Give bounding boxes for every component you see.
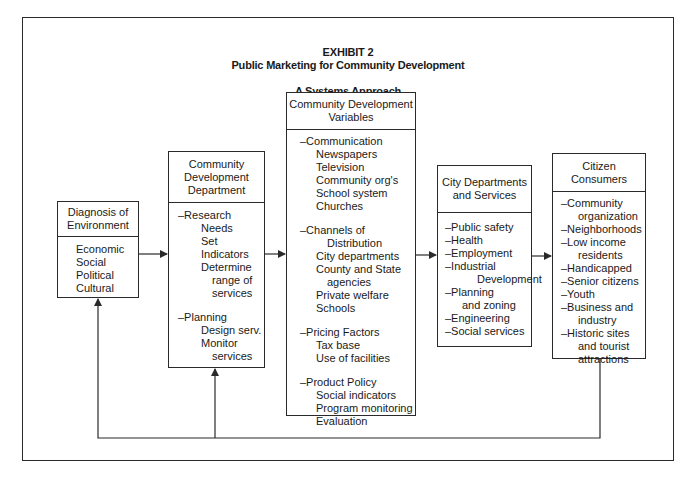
feedback-line-to-diagnosis: [98, 299, 600, 438]
connector-arrows: [0, 0, 696, 484]
